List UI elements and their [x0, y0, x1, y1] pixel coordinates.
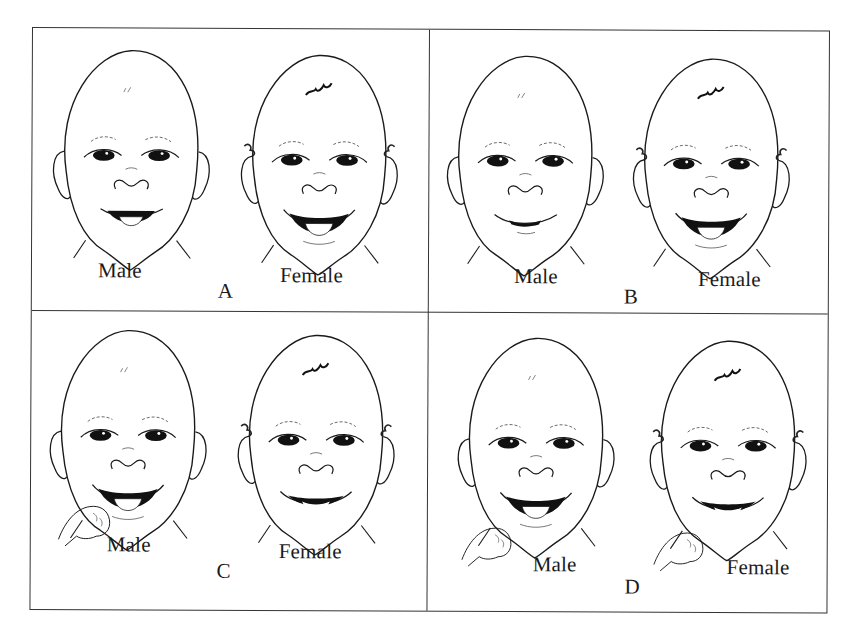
panel-letter: D [625, 575, 640, 600]
panel-letter: B [624, 285, 638, 310]
panel-letter: A [218, 279, 233, 304]
female-face-illustration [231, 327, 402, 558]
panel-a: Male Female A [32, 28, 429, 312]
panel-letter: C [217, 559, 231, 584]
male-face-illustration [46, 42, 217, 273]
female-label: Female [698, 267, 761, 292]
panel-c: Male Female C [31, 312, 428, 596]
hand-illustration [451, 354, 542, 574]
panel-d: Male Female D [429, 314, 826, 598]
female-label: Female [279, 539, 342, 564]
panel-b: Male Female B [430, 30, 827, 314]
male-label: Male [514, 264, 558, 289]
male-face-illustration [440, 48, 611, 279]
female-face-illustration [626, 51, 797, 282]
male-label: Male [107, 532, 151, 557]
male-label: Male [98, 258, 142, 283]
female-label: Female [280, 263, 343, 288]
hand-illustration [643, 359, 734, 579]
female-label: Female [727, 555, 790, 580]
male-label: Male [533, 552, 577, 577]
hand-illustration [49, 324, 140, 554]
figure-frame: Male Female A Male Female B Male Female … [29, 27, 830, 613]
female-face-illustration [234, 47, 405, 278]
